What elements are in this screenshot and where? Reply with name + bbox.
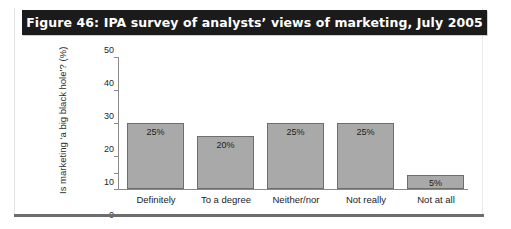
chart-plot-area: Is marketing ‘a big black hole’? (%) 50 …	[0, 0, 511, 229]
bar-value-neither-nor: 25%	[268, 127, 323, 137]
x-axis-line	[118, 189, 468, 190]
bar-not-at-all[interactable]: 5%	[407, 175, 464, 189]
bar-value-to-a-degree: 20%	[198, 140, 253, 150]
figure-container: Figure 46: IPA survey of analysts’ views…	[0, 0, 511, 229]
y-tick-label-30: 30	[92, 112, 114, 121]
y-axis-tick-labels: 50 40 30 20 10 0	[92, 50, 114, 195]
bar-value-not-at-all: 5%	[408, 178, 463, 188]
x-tick-label-definitely: Definitely	[120, 194, 192, 206]
bar-definitely[interactable]: 25%	[127, 123, 184, 189]
y-tick-label-50: 50	[92, 46, 114, 55]
bar-neither-nor[interactable]: 25%	[267, 123, 324, 189]
x-tick-label-to-a-degree: To a degree	[190, 194, 262, 206]
y-tick-label-10: 10	[92, 178, 114, 187]
bar-not-really[interactable]: 25%	[337, 123, 394, 189]
x-tick-label-not-at-all: Not at all	[400, 194, 472, 206]
y-tick-label-20: 20	[92, 145, 114, 154]
y-tick-label-40: 40	[92, 79, 114, 88]
x-axis-tick-labels: Definitely To a degree Neither/nor Not r…	[118, 194, 468, 208]
bar-series: 25% 20% 25% 25% 5%	[118, 57, 468, 189]
x-tick-label-neither-nor: Neither/nor	[260, 194, 332, 206]
bar-to-a-degree[interactable]: 20%	[197, 136, 254, 189]
x-tick-label-not-really: Not really	[330, 194, 402, 206]
bar-value-definitely: 25%	[128, 127, 183, 137]
y-axis-label: Is marketing ‘a big black hole’? (%)	[56, 48, 70, 194]
figure-bottom-rule	[14, 214, 484, 217]
bar-value-not-really: 25%	[338, 127, 393, 137]
